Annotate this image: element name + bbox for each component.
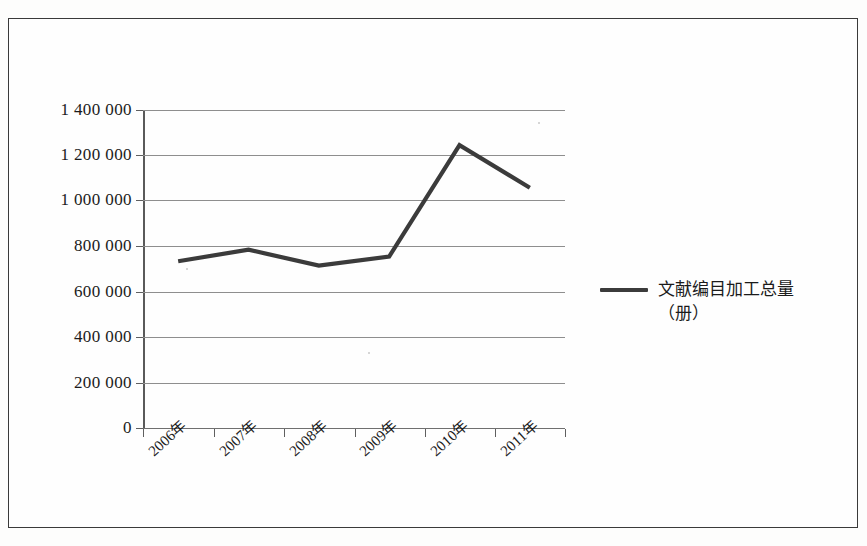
gridline [143,246,565,247]
gridline [143,110,565,111]
y-axis-tick [136,337,143,338]
y-axis-label: 0 [14,419,132,436]
gridline [143,383,565,384]
y-axis-label: 1 200 000 [14,146,132,163]
scanned-page: 1 400 000 1 200 000 1 000 000 800 000 60… [0,0,867,546]
x-axis-line [143,428,565,429]
x-axis-tick [284,429,285,437]
scan-speckle [538,122,540,124]
scan-speckle [368,352,370,354]
y-axis-labels: 1 400 000 1 200 000 1 000 000 800 000 60… [10,0,132,546]
y-axis-tick [136,383,143,384]
x-axis-tick [143,429,144,437]
y-axis-label: 600 000 [14,283,132,300]
legend-label: 文献编目加工总量 （册） [658,278,794,326]
gridline [143,155,565,156]
legend-line-swatch [600,288,648,292]
gridline [143,200,565,201]
x-axis-tick [565,429,566,437]
gridline [143,337,565,338]
x-axis-tick [355,429,356,437]
x-axis-tick [495,429,496,437]
legend: 文献编目加工总量 （册） [600,278,840,326]
y-axis-tick [136,428,143,429]
y-axis-label: 1 400 000 [14,101,132,118]
y-axis-tick [136,246,143,247]
y-axis-tick [136,110,143,111]
y-axis-tick [136,200,143,201]
y-axis-tick [136,155,143,156]
y-axis-label: 400 000 [14,328,132,345]
legend-label-line1: 文献编目加工总量 [658,280,794,299]
scan-speckle [186,268,188,270]
y-axis-label: 1 000 000 [14,191,132,208]
x-axis-tick [214,429,215,437]
legend-entry: 文献编目加工总量 （册） [600,278,840,326]
y-axis-label: 200 000 [14,374,132,391]
legend-label-line2: （册） [658,302,794,326]
x-axis-tick [425,429,426,437]
gridline [143,292,565,293]
y-axis-label: 800 000 [14,237,132,254]
y-axis-tick [136,292,143,293]
plot-area [143,110,565,428]
